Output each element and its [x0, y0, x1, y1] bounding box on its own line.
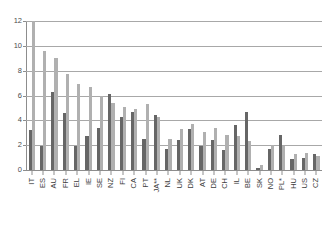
bar [316, 156, 319, 170]
x-tick-label: FI [119, 178, 127, 185]
x-tick-mark [77, 171, 78, 175]
x-tick-mark [282, 171, 283, 175]
x-axis-cell: NL [163, 171, 174, 212]
x-tick-label: JA** [153, 178, 161, 193]
x-tick-mark [179, 171, 180, 175]
x-tick-mark [122, 171, 123, 175]
x-axis-cell: DE [208, 171, 219, 212]
x-tick-mark [145, 171, 146, 175]
bar-group [72, 21, 83, 170]
bar [43, 51, 46, 170]
bar [282, 146, 285, 170]
bar [168, 139, 171, 170]
bar-group [163, 21, 174, 170]
bar-group [299, 21, 310, 170]
bar [66, 74, 69, 170]
x-tick-label: DE [210, 178, 218, 188]
bar-group [117, 21, 128, 170]
x-tick-mark [100, 171, 101, 175]
x-tick-label: IE [85, 178, 93, 185]
bar-group [49, 21, 60, 170]
x-tick-label: PL* [279, 178, 287, 190]
x-tick-mark [54, 171, 55, 175]
x-tick-label: CZ [313, 178, 321, 188]
x-axis-cell: US [299, 171, 310, 212]
x-tick-label: CA [130, 178, 138, 188]
x-tick-label: HU [290, 178, 298, 189]
x-axis-cell: AU [49, 171, 60, 212]
bar-group [94, 21, 105, 170]
x-tick-mark [270, 171, 271, 175]
x-axis-cell: PL* [277, 171, 288, 212]
x-axis-cell: CZ [311, 171, 322, 212]
bar-group [265, 21, 276, 170]
bar-group [83, 21, 94, 170]
bar [180, 129, 183, 170]
bar [294, 154, 297, 170]
x-tick-label: CH [222, 178, 230, 189]
x-tick-mark [316, 171, 317, 175]
x-axis-cell: ES [37, 171, 48, 212]
x-axis-cell: BE [242, 171, 253, 212]
x-tick-label: NL [165, 178, 173, 188]
x-tick-label: NO [267, 178, 275, 189]
x-tick-label: ES [39, 178, 47, 188]
x-tick-label: AU [51, 178, 59, 188]
x-axis-cell: HU [288, 171, 299, 212]
bar-group [37, 21, 48, 170]
x-tick-label: NZ [108, 178, 116, 188]
x-axis-cell: JA** [151, 171, 162, 212]
bar [191, 124, 194, 170]
bar-group [220, 21, 231, 170]
x-tick-mark [156, 171, 157, 175]
x-axis-cell: FR [60, 171, 71, 212]
x-tick-label: SE [96, 178, 104, 188]
x-axis-cell: AT [197, 171, 208, 212]
x-tick-label: UK [176, 178, 184, 188]
bar-group [185, 21, 196, 170]
x-tick-label: SK [256, 178, 264, 188]
x-tick-mark [259, 171, 260, 175]
bar-group [26, 21, 37, 170]
bar-group [277, 21, 288, 170]
bar-group [106, 21, 117, 170]
x-axis-cell: IL [231, 171, 242, 212]
x-tick-label: EL [74, 178, 82, 187]
bar-group [288, 21, 299, 170]
bar [54, 58, 57, 170]
bar [77, 84, 80, 170]
x-tick-label: PT [142, 178, 150, 188]
x-tick-mark [213, 171, 214, 175]
bar-group [254, 21, 265, 170]
bar [237, 136, 240, 170]
bar-group [174, 21, 185, 170]
bar-group [151, 21, 162, 170]
x-tick-mark [88, 171, 89, 175]
x-axis-cell: FI [117, 171, 128, 212]
bar-group [311, 21, 322, 170]
bar [134, 109, 137, 170]
bar [89, 87, 92, 170]
x-tick-mark [111, 171, 112, 175]
bar [203, 132, 206, 170]
bar [32, 21, 35, 170]
x-tick-mark [168, 171, 169, 175]
x-axis-cell: DK [185, 171, 196, 212]
bar [157, 117, 160, 170]
x-tick-label: DK [187, 178, 195, 188]
x-tick-label: BE [244, 178, 252, 188]
x-tick-mark [134, 171, 135, 175]
x-tick-mark [248, 171, 249, 175]
x-axis-cell: PT [140, 171, 151, 212]
x-axis-cell: EL [72, 171, 83, 212]
bar [248, 141, 251, 170]
x-axis-cell: UK [174, 171, 185, 212]
x-tick-label: US [301, 178, 309, 188]
bar-group [140, 21, 151, 170]
x-tick-mark [293, 171, 294, 175]
bar-group [197, 21, 208, 170]
x-axis-cell: IT [26, 171, 37, 212]
x-axis-cell: SK [254, 171, 265, 212]
bar [214, 128, 217, 170]
bar [146, 104, 149, 170]
